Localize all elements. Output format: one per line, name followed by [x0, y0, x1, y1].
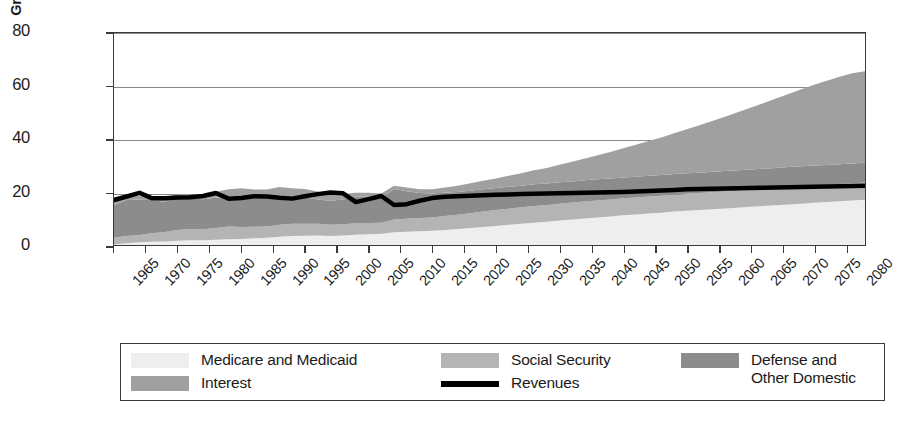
y-tick-label-80: 80	[0, 21, 30, 40]
x-tick-mark-2010	[400, 246, 401, 253]
x-tick-mark-2015	[432, 246, 433, 253]
y-tick-label-60: 60	[0, 75, 30, 94]
x-tick-label-1980: 1980	[225, 255, 258, 289]
y-tick-mark-80	[106, 32, 113, 34]
x-tick-mark-2080	[847, 246, 848, 253]
legend-item-medicare-and-medicaid[interactable]: Medicare and Medicaid	[131, 351, 357, 369]
legend-item-revenues[interactable]: Revenues	[441, 374, 579, 392]
x-tick-mark-1985	[241, 246, 242, 253]
legend-swatch-defense-and-other-domestic-icon	[681, 353, 739, 368]
x-tick-label-2070: 2070	[799, 255, 832, 289]
x-tick-mark-1995	[304, 246, 305, 253]
x-tick-mark-2000	[336, 246, 337, 253]
legend-item-defense-and-other-domestic[interactable]: Defense and Other Domestic	[681, 351, 856, 388]
x-tick-label-2040: 2040	[607, 255, 640, 289]
x-tick-mark-1975	[177, 246, 178, 253]
x-tick-label-1990: 1990	[288, 255, 321, 289]
y-tick-mark-0	[106, 246, 113, 248]
legend-label-interest: Interest	[201, 374, 251, 392]
x-tick-mark-2055	[687, 246, 688, 253]
x-tick-label-1970: 1970	[161, 255, 194, 289]
y-tick-mark-20	[106, 193, 113, 195]
x-tick-label-2020: 2020	[480, 255, 513, 289]
x-tick-label-2075: 2075	[831, 255, 864, 289]
stacked-area-layers	[114, 33, 865, 245]
legend-swatch-interest-icon	[131, 376, 189, 391]
x-tick-label-1995: 1995	[320, 255, 353, 289]
y-tick-label-20: 20	[0, 182, 30, 201]
x-tick-label-2025: 2025	[512, 255, 545, 289]
legend-swatch-social-security-icon	[441, 353, 499, 368]
x-tick-label-2015: 2015	[448, 255, 481, 289]
x-tick-mark-2065	[751, 246, 752, 253]
gdp-spending-area-chart: Percentage of Gross Domestic Product 020…	[0, 0, 901, 427]
x-tick-label-1985: 1985	[257, 255, 290, 289]
x-tick-label-2005: 2005	[384, 255, 417, 289]
legend-label-revenues: Revenues	[511, 374, 579, 392]
x-tick-label-2060: 2060	[735, 255, 768, 289]
y-tick-mark-60	[106, 86, 113, 88]
x-tick-label-2010: 2010	[416, 255, 449, 289]
x-tick-mark-2030	[528, 246, 529, 253]
legend-item-interest[interactable]: Interest	[131, 374, 251, 392]
x-tick-label-2065: 2065	[767, 255, 800, 289]
x-tick-mark-2060	[719, 246, 720, 253]
x-tick-label-2035: 2035	[576, 255, 609, 289]
x-tick-mark-1990	[273, 246, 274, 253]
x-tick-mark-2045	[624, 246, 625, 253]
y-tick-label-0: 0	[0, 235, 30, 254]
legend-label-social-security: Social Security	[511, 351, 611, 369]
x-tick-label-2080: 2080	[863, 255, 896, 289]
x-tick-mark-1970	[145, 246, 146, 253]
legend-swatch-medicare-and-medicaid-icon	[131, 353, 189, 368]
x-tick-label-1965: 1965	[129, 255, 162, 289]
x-tick-mark-2025	[496, 246, 497, 253]
x-tick-label-2045: 2045	[639, 255, 672, 289]
x-tick-label-2000: 2000	[352, 255, 385, 289]
x-tick-mark-1980	[209, 246, 210, 253]
x-tick-label-1975: 1975	[193, 255, 226, 289]
legend-swatch-revenues-line-icon	[441, 381, 499, 387]
x-tick-label-2050: 2050	[671, 255, 704, 289]
x-tick-mark-2070	[783, 246, 784, 253]
plot-area	[113, 32, 866, 246]
x-tick-mark-2035	[560, 246, 561, 253]
x-tick-mark-2075	[815, 246, 816, 253]
legend-label-medicare-and-medicaid: Medicare and Medicaid	[201, 351, 357, 369]
x-tick-label-2055: 2055	[703, 255, 736, 289]
chart-legend: Medicare and MedicaidInterestSocial Secu…	[120, 343, 885, 401]
y-tick-label-40: 40	[0, 128, 30, 147]
x-tick-mark-2020	[464, 246, 465, 253]
x-tick-label-2030: 2030	[544, 255, 577, 289]
legend-item-social-security[interactable]: Social Security	[441, 351, 611, 369]
x-tick-mark-2005	[368, 246, 369, 253]
x-tick-mark-2050	[655, 246, 656, 253]
x-tick-mark-2040	[592, 246, 593, 253]
y-tick-mark-40	[106, 139, 113, 141]
x-tick-mark-1965	[113, 246, 114, 253]
legend-label-defense-and-other-domestic: Defense and Other Domestic	[751, 351, 856, 388]
